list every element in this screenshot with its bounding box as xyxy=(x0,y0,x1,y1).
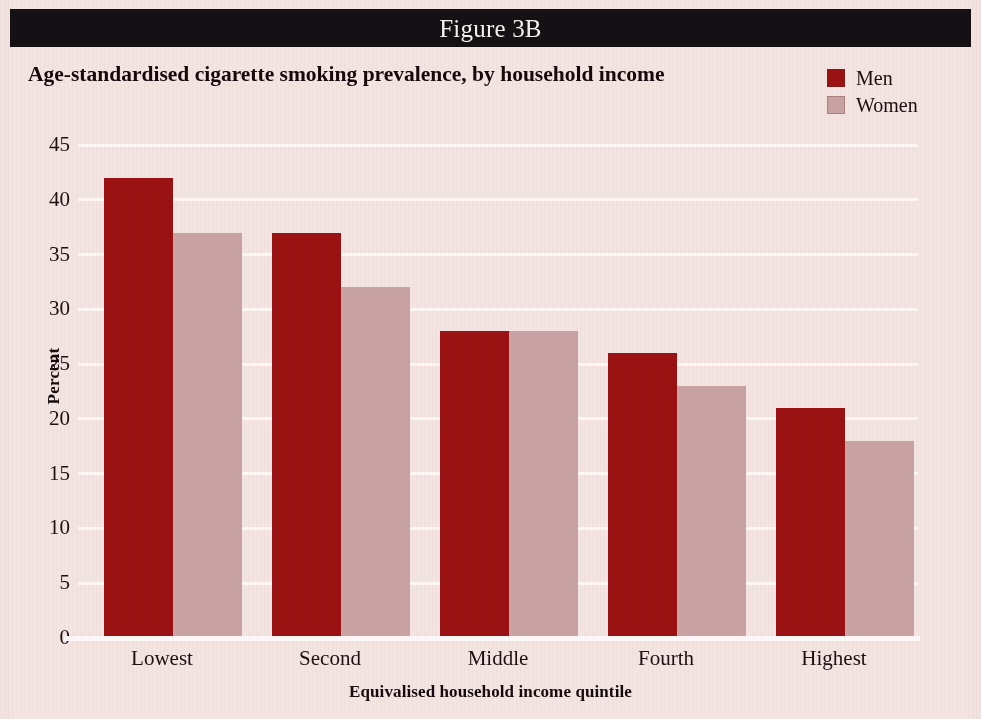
bar-lowest-men xyxy=(104,178,173,638)
y-axis-title: Percent xyxy=(44,316,64,436)
bar-second-women xyxy=(341,287,410,638)
x-axis-title: Equivalised household income quintile xyxy=(0,682,981,702)
plot-area xyxy=(78,145,918,638)
bar-middle-men xyxy=(440,331,509,638)
figure-root: Figure 3B Age-standardised cigarette smo… xyxy=(0,0,981,719)
y-axis-tick-label: 45 xyxy=(18,134,70,155)
x-axis-tick-label: Middle xyxy=(414,648,582,669)
y-axis-tick-label: 5 xyxy=(18,572,70,593)
y-axis-tick-label: 35 xyxy=(18,244,70,265)
y-axis-tick-label: 15 xyxy=(18,463,70,484)
y-axis-tick-label: 10 xyxy=(18,517,70,538)
bar-middle-women xyxy=(509,331,578,638)
x-axis-tick-label: Fourth xyxy=(582,648,750,669)
bar-fourth-men xyxy=(608,353,677,638)
x-axis-tick-label: Highest xyxy=(750,648,918,669)
x-axis-baseline xyxy=(64,636,920,641)
x-axis-tick-label: Lowest xyxy=(78,648,246,669)
gridline xyxy=(78,144,918,147)
x-axis-tick-label: Second xyxy=(246,648,414,669)
bar-fourth-women xyxy=(677,386,746,638)
y-axis-tick-label: 40 xyxy=(18,189,70,210)
plot-wrapper: 051015202530354045 Percent LowestSecondM… xyxy=(0,0,981,719)
y-axis-tick-label: 0 xyxy=(18,627,70,648)
bar-lowest-women xyxy=(173,233,242,638)
bar-highest-men xyxy=(776,408,845,638)
bar-highest-women xyxy=(845,441,914,638)
bar-second-men xyxy=(272,233,341,638)
gridline xyxy=(78,198,918,201)
